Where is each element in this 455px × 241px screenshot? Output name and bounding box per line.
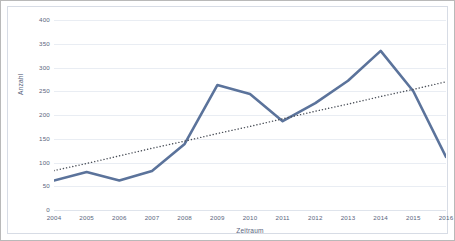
y-axis-tick: 350 — [39, 41, 50, 47]
y-axis-tick: 0 — [46, 207, 50, 213]
y-axis-tick: 200 — [39, 112, 50, 118]
plot-area — [54, 20, 446, 210]
chart-lines — [54, 20, 446, 210]
y-axis-tick: 400 — [39, 17, 50, 23]
x-axis-tick: 2013 — [341, 214, 356, 221]
y-axis-tick-labels: 400350300250200150100500 — [24, 20, 50, 210]
plot-frame: 400350300250200150100500 200420052006200… — [7, 6, 448, 234]
x-axis-tick: 2007 — [145, 214, 160, 221]
data-series-line — [54, 51, 446, 181]
x-axis-tick: 2009 — [210, 214, 225, 221]
chart-container: 400350300250200150100500 200420052006200… — [0, 0, 455, 241]
y-axis-title: Anzahl — [17, 74, 24, 95]
x-axis-tick: 2014 — [373, 214, 388, 221]
y-axis-tick: 150 — [39, 136, 50, 142]
y-axis-tick: 250 — [39, 88, 50, 94]
x-axis-tick: 2006 — [112, 214, 127, 221]
x-axis-tick: 2005 — [79, 214, 94, 221]
x-axis-tick: 2008 — [177, 214, 192, 221]
y-axis-tick: 100 — [39, 160, 50, 166]
x-axis-tick: 2015 — [406, 214, 421, 221]
x-axis-tick: 2010 — [243, 214, 258, 221]
x-axis-title: Zeitraum — [54, 227, 446, 234]
x-axis-tick: 2012 — [308, 214, 323, 221]
y-axis-tick: 50 — [43, 183, 50, 189]
x-axis-tick-labels: 2004200520062007200820092010201120122013… — [54, 214, 446, 226]
x-axis-tick: 2011 — [276, 214, 290, 221]
x-axis-tick: 2016 — [439, 214, 454, 221]
y-axis-tick: 300 — [39, 65, 50, 71]
gridline — [54, 210, 446, 211]
x-axis-tick: 2004 — [47, 214, 62, 221]
